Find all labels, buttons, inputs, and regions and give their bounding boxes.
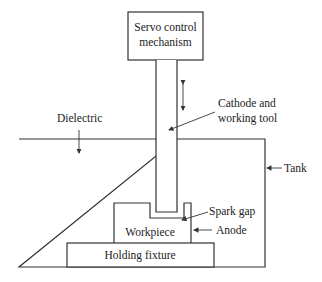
spark-gap-label: Spark gap bbox=[209, 205, 256, 218]
servo-label-1: Servo control bbox=[134, 21, 196, 33]
fixture-label: Holding fixture bbox=[104, 249, 175, 262]
cathode-label-1: Cathode and bbox=[218, 97, 276, 109]
workpiece-label: Workpiece bbox=[125, 226, 175, 239]
cathode-label-2: working tool bbox=[218, 112, 277, 125]
anode-label: Anode bbox=[216, 224, 247, 236]
cathode-tool bbox=[156, 60, 177, 212]
tank-label: Tank bbox=[284, 162, 307, 174]
edm-diagram: Servo control mechanism Cathode and work… bbox=[0, 0, 322, 282]
servo-label-2: mechanism bbox=[139, 36, 191, 48]
dielectric-label: Dielectric bbox=[57, 112, 102, 124]
